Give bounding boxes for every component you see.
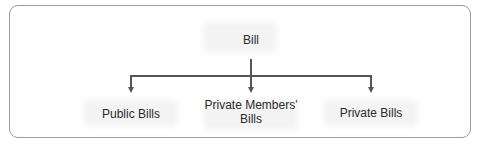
connector-lines (0, 0, 480, 154)
private-bills-label: Private Bills (340, 106, 403, 120)
child-node-private-members-bills: Private Members' Bills (196, 98, 306, 126)
private-members-bills-line-1: Private Members' (196, 98, 306, 112)
root-node-bill: Bill (211, 33, 291, 47)
public-bills-label: Public Bills (102, 107, 160, 121)
child-node-public-bills: Public Bills (86, 107, 176, 121)
private-members-bills-line-2: Bills (196, 112, 306, 126)
root-node-label: Bill (243, 33, 259, 47)
child-node-private-bills: Private Bills (326, 106, 416, 120)
